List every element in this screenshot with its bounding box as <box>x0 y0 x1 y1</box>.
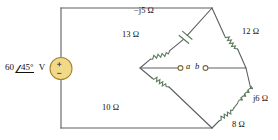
resistor-12-ohm-label: 12 Ω <box>242 27 259 36</box>
resistor-13-ohm-zigzag <box>151 51 170 60</box>
terminal-a-label: a <box>186 62 190 71</box>
voltage-source-circle <box>50 58 72 80</box>
source-unit: V <box>36 62 46 72</box>
wire-ul-3 <box>187 8 212 35</box>
wire-lr-3 <box>246 68 251 88</box>
wire-ur-1 <box>212 8 225 36</box>
source-magnitude: 60 <box>5 62 14 72</box>
resistor-13-ohm-label: 13 Ω <box>122 30 139 39</box>
terminal-b-dot[interactable] <box>203 66 208 71</box>
wire-ll-1 <box>140 68 152 78</box>
voltage-source-symbol <box>50 58 72 80</box>
inductor-j6-coils <box>238 86 253 103</box>
degree-symbol: ° <box>30 62 34 72</box>
wire-ur-2 <box>238 49 246 68</box>
resistor-12-ohm-zigzag <box>225 36 238 50</box>
terminal-a-dot[interactable] <box>178 66 183 71</box>
wire-lr-2 <box>234 104 238 109</box>
resistor-8-ohm-label: 8 Ω <box>232 120 245 129</box>
circuit-figure: 60 ∠ 45° V −j5 Ω 13 Ω 12 Ω 10 Ω 8 Ω j6 Ω… <box>0 0 278 140</box>
capacitor-neg-j5-label: −j5 Ω <box>134 6 154 15</box>
voltage-source-label: 60 ∠ 45° V <box>5 63 45 73</box>
wire-ul-1 <box>140 59 151 68</box>
resistor-10-ohm-zigzag <box>152 77 169 87</box>
inductor-j6-label: j6 Ω <box>253 94 268 103</box>
wire-ul-2 <box>170 39 184 50</box>
wire-lr-1 <box>212 121 220 129</box>
resistor-10-ohm-label: 10 Ω <box>102 103 119 112</box>
wire-ll-2 <box>169 87 212 128</box>
branch-upper-left <box>140 8 212 68</box>
branch-upper-right <box>212 8 246 68</box>
branch-lower-left <box>140 68 212 128</box>
terminal-b-label: b <box>195 62 199 71</box>
